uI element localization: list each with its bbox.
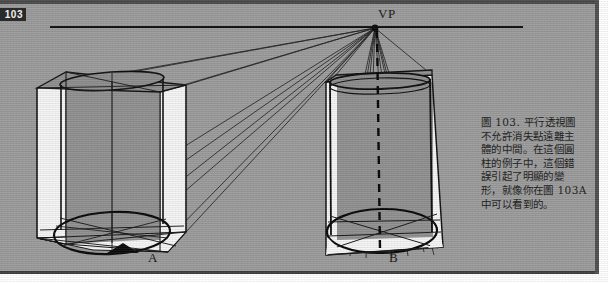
vanishing-point-label: VP xyxy=(378,6,396,22)
caption-line: 圖 103. 平行透視圖 xyxy=(481,116,585,130)
page-margin-bottom xyxy=(0,274,608,283)
vanishing-point-dot xyxy=(372,25,379,32)
page-margin-right xyxy=(599,0,608,283)
caption-line: 柱的例子中，這個錯 xyxy=(481,157,585,171)
caption-line: 不允許消失點遠離主 xyxy=(481,130,585,144)
plate-top-rule xyxy=(0,0,608,4)
figure-b-cylinder-body-cap xyxy=(337,82,433,240)
figure-caption: 圖 103. 平行透視圖 不允許消失點遠離主 體的中間。在這個圓 柱的例子中，這… xyxy=(481,116,585,211)
figure-a-label: A xyxy=(148,250,157,266)
caption-line: 誤引起了明顯的變 xyxy=(481,170,585,184)
caption-line: 形，就像你在圖 103A xyxy=(481,184,585,198)
figure-plate: VP A B 圖 103. 平行透視圖 不允許消失點遠離主 體的中間。在這個圓 … xyxy=(0,0,608,283)
figure-b-label: B xyxy=(389,250,398,266)
page-number-tab: 103 xyxy=(0,8,26,21)
figure-a-box-right-face xyxy=(160,85,186,239)
figure-a-cylinder xyxy=(37,68,186,256)
caption-line: 中可以看到的。 xyxy=(481,198,585,212)
caption-line: 體的中間。在這個圓 xyxy=(481,143,585,157)
